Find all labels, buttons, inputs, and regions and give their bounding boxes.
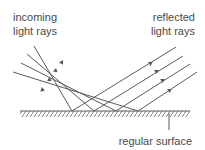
reflected-label-line1: reflected (153, 11, 195, 23)
reflected-label-line2: light rays (151, 25, 196, 37)
incoming-arrow-icon-2 (53, 68, 58, 72)
incoming-ray-1 (34, 46, 72, 111)
incoming-arrow-icon-1 (59, 60, 63, 65)
incoming-arrow-icon-4 (40, 87, 45, 92)
reflected-ray-2 (94, 56, 183, 111)
reflection-diagram: incoming light rays reflected light rays… (0, 0, 205, 150)
incoming-arrow-icon-3 (47, 77, 52, 81)
incoming-label-line2: light rays (13, 25, 58, 37)
incoming-ray-3 (21, 63, 116, 111)
surface-hatching (20, 111, 190, 117)
incoming-ray-4 (13, 72, 138, 111)
reflected-ray-3 (116, 64, 190, 111)
incoming-label-line1: incoming (13, 11, 57, 23)
surface-label: regular surface (119, 135, 192, 147)
regular-surface (20, 111, 190, 117)
light-rays (13, 46, 197, 111)
reflected-ray-1 (72, 47, 176, 111)
